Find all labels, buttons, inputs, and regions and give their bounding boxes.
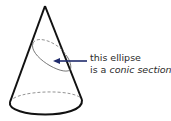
annotation-line-1: this ellipse: [90, 52, 141, 63]
cone-left-side: [10, 6, 45, 102]
conic-section-diagram: this ellipse is a conic section: [0, 0, 171, 121]
base-ellipse-back-dashed: [10, 92, 82, 102]
annotation-line-2: is a conic section: [90, 64, 171, 75]
arrow-head-icon: [53, 58, 60, 64]
annotation-term-conic-section: conic section: [109, 64, 171, 75]
annotation-line-2-prefix: is a: [90, 64, 109, 75]
cone-right-side: [45, 6, 82, 100]
cone-drawing: [0, 0, 171, 121]
base-ellipse-front: [10, 100, 82, 115]
